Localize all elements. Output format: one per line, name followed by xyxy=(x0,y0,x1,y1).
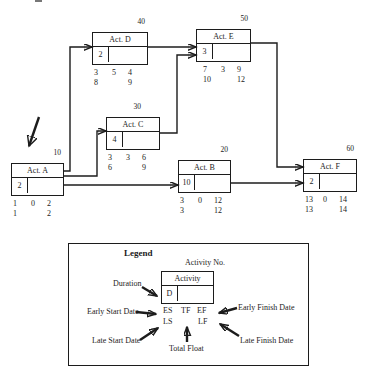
empty-cell xyxy=(320,174,356,189)
es-value: 7 xyxy=(203,65,221,75)
activity-bottom-row: 2 xyxy=(304,174,356,189)
activity-bottom-row: 3 xyxy=(197,44,250,59)
lf-value: 12 xyxy=(214,206,234,216)
activity-name: Act. B xyxy=(179,161,230,175)
legend-bottom-row: D xyxy=(162,286,213,301)
es-value: 3 xyxy=(108,153,126,163)
activity-bottom-row: 10 xyxy=(179,175,230,190)
activity-number: 50 xyxy=(241,14,249,23)
empty-cell xyxy=(195,175,230,190)
activity-dates: 336 69 xyxy=(108,153,162,173)
empty-cell xyxy=(109,47,147,62)
activity-name: Act. F xyxy=(304,160,356,174)
spacer xyxy=(323,205,339,215)
activity-name: Act. A xyxy=(12,164,63,178)
es-value: 13 xyxy=(305,195,323,205)
duration-cell: 3 xyxy=(197,44,213,59)
early-start-label: Early Start Date xyxy=(87,307,139,316)
ls-value: 8 xyxy=(94,78,112,88)
spacer xyxy=(221,75,237,85)
activity-node-a: 10 Act. A 2 102 12 xyxy=(11,163,64,196)
spacer xyxy=(198,206,214,216)
duration-cell: 2 xyxy=(12,178,28,193)
es-value: 3 xyxy=(94,68,112,78)
activity-number: 10 xyxy=(54,148,62,157)
ef-value: 9 xyxy=(237,65,257,75)
activity-number: 30 xyxy=(134,102,142,111)
edge-a-to-c xyxy=(64,131,106,176)
legend-box: Legend Activity No. Activity D Duration … xyxy=(68,243,309,366)
lf-value: 9 xyxy=(128,78,148,88)
activity-number: 60 xyxy=(347,144,355,153)
ef-value: 12 xyxy=(214,196,234,206)
empty-cell xyxy=(123,132,159,147)
tf-value: 0 xyxy=(198,196,214,206)
activity-bottom-row: 2 xyxy=(12,178,63,193)
ls-value: 10 xyxy=(203,75,221,85)
es-value: 3 xyxy=(180,196,198,206)
activity-bottom-row: 4 xyxy=(107,132,159,147)
ls-value: 3 xyxy=(180,206,198,216)
es-abbrev: ES xyxy=(163,306,172,315)
ls-value: 13 xyxy=(305,205,323,215)
activity-no-label: Activity No. xyxy=(185,258,225,267)
total-float-label: Total Float xyxy=(169,344,204,353)
spacer xyxy=(126,163,142,173)
lf-abbrev: LF xyxy=(198,317,207,326)
activity-dates: 354 89 xyxy=(94,68,148,88)
tf-value: 3 xyxy=(221,65,237,75)
edge-e-to-f xyxy=(251,43,303,167)
activity-number: 40 xyxy=(138,17,146,26)
ef-value: 2 xyxy=(47,199,67,209)
ef-value: 14 xyxy=(339,195,359,205)
start-arrow xyxy=(29,117,39,146)
ls-abbrev: LS xyxy=(163,317,172,326)
lf-value: 14 xyxy=(339,205,359,215)
activity-dates: 739 1012 xyxy=(203,65,257,85)
legend-activity-box: Activity D xyxy=(161,271,214,304)
activity-node-c: 30 Act. C 4 336 69 xyxy=(106,117,160,150)
tf-value: 5 xyxy=(112,68,128,78)
duration-cell: 10 xyxy=(179,175,195,190)
legend-duration-cell: D xyxy=(162,286,178,301)
activity-node-b: 20 Act. B 10 3012 312 xyxy=(178,160,231,193)
activity-node-d: 40 Act. D 2 354 89 xyxy=(92,32,148,65)
duration-cell: 2 xyxy=(93,47,109,62)
late-start-label: Late Start Date xyxy=(92,336,140,345)
es-value: 1 xyxy=(13,199,31,209)
edge-c-to-e xyxy=(160,55,196,133)
empty-cell xyxy=(28,178,63,193)
ls-value: 6 xyxy=(108,163,126,173)
edge-a-to-d xyxy=(64,47,92,171)
activity-node-e: 50 Act. E 3 739 1012 xyxy=(196,29,251,62)
lf-value: 9 xyxy=(142,163,162,173)
duration-label: Duration xyxy=(113,279,141,288)
tf-abbrev: TF xyxy=(181,306,190,315)
empty-cell xyxy=(213,44,250,59)
ef-value: 6 xyxy=(142,153,162,163)
late-finish-label: Late Finish Date xyxy=(240,336,293,345)
scan-artifact xyxy=(35,0,42,2)
activity-dates: 3012 312 xyxy=(180,196,234,216)
duration-cell: 2 xyxy=(304,174,320,189)
ef-abbrev: EF xyxy=(197,306,206,315)
spacer xyxy=(31,209,47,219)
tf-value: 0 xyxy=(323,195,339,205)
tf-value: 3 xyxy=(126,153,142,163)
early-finish-label: Early Finish Date xyxy=(238,303,294,312)
activity-name: Act. D xyxy=(93,33,147,47)
activity-bottom-row: 2 xyxy=(93,47,147,62)
ls-value: 1 xyxy=(13,209,31,219)
activity-name: Act. C xyxy=(107,118,159,132)
activity-number: 20 xyxy=(221,145,229,154)
ef-value: 4 xyxy=(128,68,148,78)
legend-activity-name: Activity xyxy=(162,272,213,286)
activity-dates: 13014 1314 xyxy=(305,195,359,215)
legend-empty-cell xyxy=(178,286,213,301)
legend-title: Legend xyxy=(124,248,153,258)
lf-value: 12 xyxy=(237,75,257,85)
tf-value: 0 xyxy=(31,199,47,209)
activity-node-f: 60 Act. F 2 13014 1314 xyxy=(303,159,357,192)
spacer xyxy=(112,78,128,88)
activity-dates: 102 12 xyxy=(13,199,67,219)
